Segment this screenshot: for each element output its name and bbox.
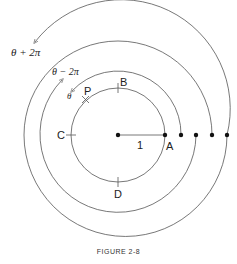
point-a [163, 133, 167, 137]
figure-caption: FIGURE 2-8 [0, 248, 237, 255]
label-a: A [166, 141, 173, 152]
dot-theta [179, 133, 183, 137]
label-b: B [120, 77, 127, 88]
figure-2-8: θ + 2π θ − 2π θ P B C 1 A D FIGURE 2-8 [0, 0, 237, 264]
label-c: C [57, 130, 65, 141]
label-theta-minus-2pi: θ − 2π [52, 67, 79, 77]
label-radius: 1 [137, 140, 143, 151]
label-theta-plus-2pi: θ + 2π [11, 47, 40, 58]
center-point [116, 133, 120, 137]
unit-circle-diagram [0, 0, 237, 264]
label-theta: θ [67, 92, 71, 101]
theta-plus-2pi-arc [24, 0, 230, 236]
dot-theta-plus-start [210, 133, 214, 137]
dot-theta-plus-end [225, 133, 229, 137]
label-p: P [84, 86, 91, 97]
dot-theta-minus [194, 133, 198, 137]
label-d: D [114, 189, 122, 200]
